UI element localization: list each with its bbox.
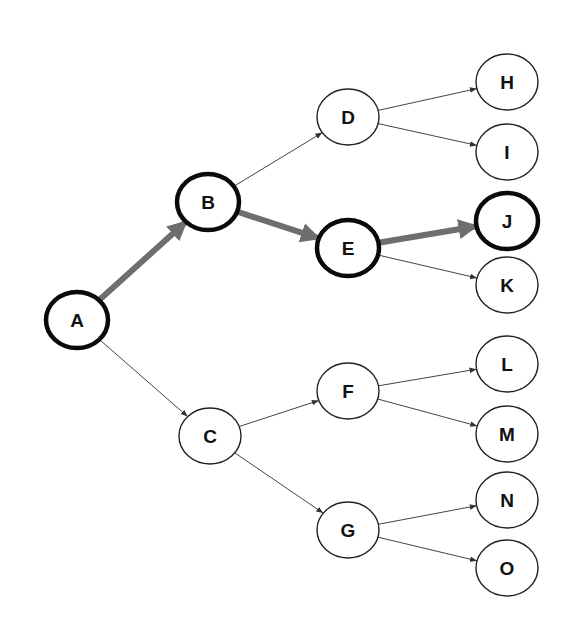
node-h: H [476,54,538,110]
node-j: J [476,193,538,249]
node-label-e: E [342,238,355,259]
node-l: L [476,336,538,392]
node-label-o: O [500,558,515,579]
edges-layer [99,89,477,561]
node-b: B [177,174,239,230]
node-label-d: D [341,107,355,128]
edge-f-to-l [379,369,477,386]
edge-b-to-d [234,133,323,187]
node-a: A [46,292,108,348]
node-label-g: G [341,520,356,541]
node-o: O [476,540,538,596]
node-c: C [179,408,241,464]
node-i: I [476,124,538,180]
node-e: E [317,220,379,276]
node-label-i: I [504,142,509,163]
node-label-m: M [499,424,515,445]
node-label-c: C [203,426,217,447]
node-f: F [317,363,379,419]
node-label-n: N [500,490,514,511]
node-g: G [317,502,379,558]
node-n: N [476,472,538,528]
edge-b-to-e-highlighted [237,212,319,239]
edge-g-to-n [378,506,476,525]
node-label-h: H [500,72,514,93]
node-label-f: F [342,381,354,402]
node-label-k: K [500,275,514,296]
edge-c-to-g [235,453,323,513]
edge-g-to-o [378,537,477,561]
nodes-layer: ABCDEFGHIJKLMNO [46,54,538,596]
edge-e-to-k [378,255,477,278]
edge-f-to-m [378,399,478,426]
node-k: K [476,257,538,313]
tree-diagram-svg: ABCDEFGHIJKLMNO [0,0,568,631]
edge-c-to-f [239,401,319,427]
edge-d-to-h [378,89,477,111]
edge-a-to-b-highlighted [99,222,186,300]
tree-diagram: ABCDEFGHIJKLMNO [0,0,568,631]
node-d: D [317,89,379,145]
node-label-a: A [70,310,84,331]
edge-e-to-j-highlighted [379,226,477,243]
node-m: M [476,406,538,462]
node-label-l: L [501,354,513,375]
node-label-j: J [502,211,513,232]
edge-a-to-c [99,339,187,416]
node-label-b: B [201,192,215,213]
edge-d-to-i [378,124,477,146]
